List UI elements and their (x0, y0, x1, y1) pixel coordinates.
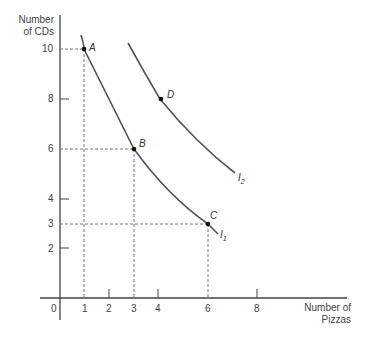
x-tick-label-4: 4 (155, 303, 161, 314)
y-axis-title: Number of CDs (10, 14, 54, 38)
x-tick-label-0: 0 (51, 303, 57, 314)
y-tick-label-10: 10 (42, 43, 53, 54)
y-title-line1: Number (10, 14, 54, 26)
x-title-line1: Number of (280, 302, 351, 314)
point-a-marker (82, 47, 87, 52)
y-tick-label-8: 8 (48, 93, 54, 104)
x-axis-title: Number of Pizzas (280, 302, 351, 326)
point-c-marker (206, 222, 211, 227)
y-tick-label-4: 4 (48, 193, 54, 204)
y-tick-label-2: 2 (48, 243, 54, 254)
point-b-marker (132, 147, 137, 152)
y-title-line2: of CDs (10, 26, 54, 38)
x-tick-label-8: 8 (254, 303, 260, 314)
x-tick-label-1: 1 (82, 303, 88, 314)
x-title-line2: Pizzas (280, 314, 351, 326)
point-b-label: B (139, 138, 146, 149)
curve-i1 (81, 35, 218, 234)
point-c-label: C (210, 210, 217, 221)
indifference-chart (0, 0, 367, 341)
curve-i1-subscript: 1 (223, 235, 227, 242)
x-tick-label-6: 6 (205, 303, 211, 314)
point-d-label: D (167, 89, 174, 100)
point-a-label: A (89, 42, 96, 53)
y-tick-label-6: 6 (48, 143, 54, 154)
x-tick-label-3: 3 (131, 303, 137, 314)
y-tick-label-3: 3 (48, 218, 54, 229)
curve-i1-label: I1 (220, 229, 227, 242)
point-d-marker (159, 97, 164, 102)
x-tick-label-2: 2 (106, 303, 112, 314)
curve-i2-subscript: 2 (241, 178, 245, 185)
curve-i2 (128, 43, 235, 173)
guide-lines (60, 49, 208, 298)
curve-i2-label: I2 (238, 172, 245, 185)
